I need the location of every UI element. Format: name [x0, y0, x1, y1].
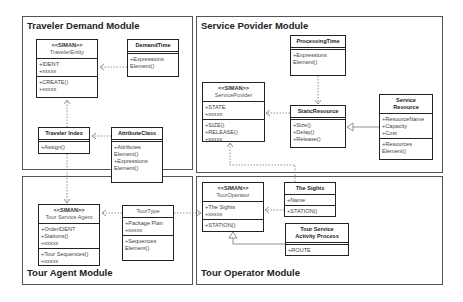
relationship-links [0, 0, 463, 302]
